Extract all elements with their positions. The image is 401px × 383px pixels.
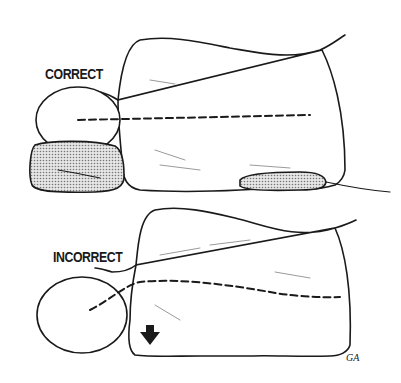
correct-label: CORRECT: [45, 65, 103, 82]
head-incorrect: [37, 277, 127, 353]
incorrect-panel: [37, 208, 356, 356]
torso-correct: [118, 35, 345, 192]
correct-panel: [30, 35, 390, 192]
hip-pillow: [240, 172, 326, 190]
incorrect-label: INCORRECT: [53, 248, 122, 265]
pillow: [30, 141, 124, 192]
illustration: [0, 0, 401, 383]
artist-signature: GA: [346, 352, 359, 363]
torso-incorrect: [129, 208, 356, 356]
